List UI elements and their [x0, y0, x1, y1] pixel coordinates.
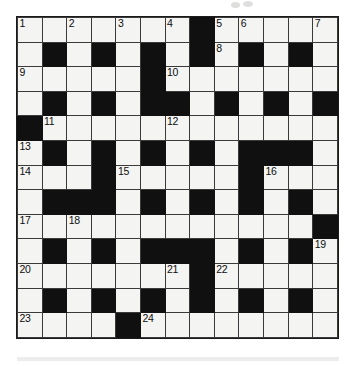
crossword-cell[interactable] — [18, 91, 43, 116]
crossword-cell[interactable] — [313, 263, 338, 288]
crossword-cell[interactable] — [263, 67, 288, 92]
crossword-cell[interactable] — [165, 190, 190, 215]
crossword-cell[interactable] — [214, 165, 239, 190]
crossword-cell[interactable] — [190, 116, 215, 141]
crossword-cell[interactable] — [67, 263, 92, 288]
crossword-cell[interactable] — [313, 116, 338, 141]
crossword-cell[interactable]: 16 — [263, 165, 288, 190]
crossword-cell[interactable]: 17 — [18, 214, 43, 239]
crossword-cell[interactable] — [263, 18, 288, 43]
crossword-cell[interactable] — [18, 42, 43, 67]
crossword-cell[interactable] — [263, 239, 288, 264]
crossword-cell[interactable] — [18, 288, 43, 313]
crossword-cell[interactable] — [239, 313, 264, 338]
crossword-cell[interactable] — [140, 116, 165, 141]
crossword-cell[interactable] — [165, 214, 190, 239]
crossword-cell[interactable] — [313, 313, 338, 338]
crossword-cell[interactable] — [91, 263, 116, 288]
crossword-cell[interactable]: 20 — [18, 263, 43, 288]
crossword-cell[interactable]: 12 — [165, 116, 190, 141]
crossword-cell[interactable] — [116, 239, 141, 264]
crossword-cell[interactable] — [239, 263, 264, 288]
crossword-cell[interactable] — [263, 288, 288, 313]
crossword-cell[interactable] — [190, 165, 215, 190]
crossword-cell[interactable] — [91, 214, 116, 239]
crossword-cell[interactable] — [288, 165, 313, 190]
crossword-cell[interactable] — [288, 91, 313, 116]
crossword-cell[interactable] — [116, 116, 141, 141]
crossword-cell[interactable] — [214, 67, 239, 92]
crossword-cell[interactable] — [288, 313, 313, 338]
crossword-cell[interactable] — [313, 165, 338, 190]
crossword-grid[interactable]: 123456789101112131415161718192021222324 — [17, 17, 338, 338]
crossword-cell[interactable]: 13 — [18, 140, 43, 165]
crossword-cell[interactable] — [214, 116, 239, 141]
crossword-cell[interactable] — [239, 91, 264, 116]
crossword-cell[interactable]: 1 — [18, 18, 43, 43]
crossword-cell[interactable] — [67, 140, 92, 165]
crossword-cell[interactable]: 19 — [313, 239, 338, 264]
crossword-cell[interactable] — [165, 288, 190, 313]
crossword-cell[interactable] — [239, 116, 264, 141]
crossword-cell[interactable]: 2 — [67, 18, 92, 43]
crossword-cell[interactable] — [42, 214, 67, 239]
crossword-cell[interactable]: 11 — [42, 116, 67, 141]
crossword-cell[interactable] — [140, 18, 165, 43]
crossword-cell[interactable] — [190, 91, 215, 116]
crossword-cell[interactable] — [116, 263, 141, 288]
crossword-cell[interactable] — [67, 67, 92, 92]
crossword-cell[interactable]: 24 — [140, 313, 165, 338]
crossword-cell[interactable] — [239, 214, 264, 239]
crossword-cell[interactable] — [165, 140, 190, 165]
crossword-cell[interactable] — [214, 288, 239, 313]
crossword-cell[interactable] — [116, 67, 141, 92]
crossword-cell[interactable]: 4 — [165, 18, 190, 43]
crossword-cell[interactable] — [42, 263, 67, 288]
crossword-cell[interactable] — [140, 214, 165, 239]
crossword-cell[interactable] — [42, 67, 67, 92]
crossword-cell[interactable] — [214, 214, 239, 239]
crossword-cell[interactable] — [91, 116, 116, 141]
crossword-cell[interactable] — [18, 190, 43, 215]
crossword-cell[interactable] — [116, 42, 141, 67]
crossword-cell[interactable] — [214, 313, 239, 338]
crossword-cell[interactable]: 6 — [239, 18, 264, 43]
crossword-cell[interactable] — [91, 18, 116, 43]
crossword-cell[interactable] — [67, 91, 92, 116]
crossword-cell[interactable] — [313, 288, 338, 313]
crossword-cell[interactable] — [42, 18, 67, 43]
crossword-cell[interactable] — [313, 140, 338, 165]
crossword-cell[interactable] — [116, 190, 141, 215]
crossword-cell[interactable] — [263, 263, 288, 288]
crossword-cell[interactable]: 15 — [116, 165, 141, 190]
crossword-cell[interactable] — [67, 313, 92, 338]
crossword-cell[interactable] — [67, 239, 92, 264]
crossword-cell[interactable] — [190, 313, 215, 338]
crossword-cell[interactable] — [263, 313, 288, 338]
crossword-cell[interactable] — [313, 67, 338, 92]
crossword-cell[interactable] — [288, 214, 313, 239]
crossword-cell[interactable]: 23 — [18, 313, 43, 338]
crossword-cell[interactable] — [214, 190, 239, 215]
crossword-cell[interactable] — [165, 165, 190, 190]
crossword-cell[interactable] — [263, 190, 288, 215]
crossword-cell[interactable] — [116, 91, 141, 116]
crossword-cell[interactable] — [67, 42, 92, 67]
crossword-cell[interactable] — [165, 42, 190, 67]
crossword-cell[interactable] — [67, 165, 92, 190]
crossword-cell[interactable] — [288, 116, 313, 141]
crossword-cell[interactable] — [165, 313, 190, 338]
crossword-cell[interactable] — [190, 214, 215, 239]
crossword-cell[interactable]: 7 — [313, 18, 338, 43]
crossword-cell[interactable]: 18 — [67, 214, 92, 239]
crossword-cell[interactable] — [116, 288, 141, 313]
crossword-cell[interactable]: 9 — [18, 67, 43, 92]
crossword-cell[interactable]: 10 — [165, 67, 190, 92]
crossword-cell[interactable] — [214, 239, 239, 264]
crossword-cell[interactable]: 14 — [18, 165, 43, 190]
crossword-cell[interactable] — [313, 190, 338, 215]
crossword-cell[interactable] — [288, 18, 313, 43]
crossword-cell[interactable] — [116, 214, 141, 239]
crossword-cell[interactable] — [42, 313, 67, 338]
crossword-cell[interactable]: 22 — [214, 263, 239, 288]
